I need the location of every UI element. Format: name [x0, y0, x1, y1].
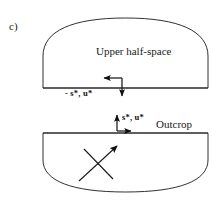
figure-panel-c: c) Upper half-space Outcrop - s*, u* s*,… — [0, 0, 213, 201]
panel-label: c) — [9, 20, 18, 32]
negative-traction-label: - s*, u* — [65, 88, 92, 98]
slip-direction-arrow — [79, 146, 117, 181]
lower-half-space-boundary — [43, 133, 208, 192]
upper-half-space-label: Upper half-space — [96, 45, 171, 57]
outcrop-label: Outcrop — [156, 118, 192, 130]
positive-traction-label: s*, u* — [122, 112, 144, 122]
figure-drawing — [0, 0, 213, 201]
